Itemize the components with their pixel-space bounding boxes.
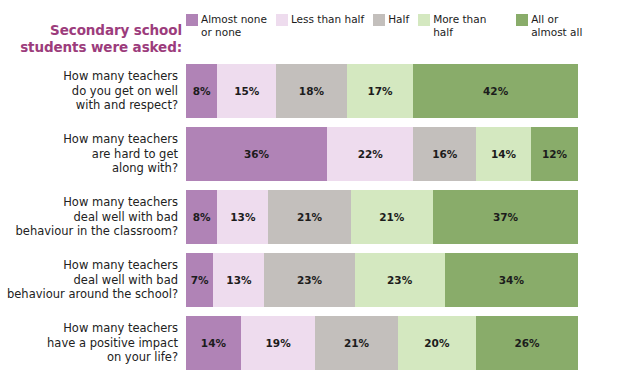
bar-segment-value: 37% [493,211,518,223]
bar-segment-value: 26% [514,337,539,349]
bar-segment[interactable]: 37% [433,190,578,244]
bar-segment-value: 34% [499,274,524,286]
bar-segment[interactable]: 23% [355,253,445,307]
legend-item-label: All or almost all [531,13,582,38]
bar-segment[interactable]: 34% [445,253,578,307]
legend-item-label: Almost none or none [201,13,267,38]
bar-segment-value: 8% [193,211,211,223]
bar-segment-value: 16% [432,148,457,160]
bar-segment-value: 18% [299,85,324,97]
chart-row: How many teachers are hard to get along … [0,125,634,188]
bar-segment-value: 19% [266,337,291,349]
bar-segment-value: 17% [367,85,392,97]
row-label: How many teachers deal well with bad beh… [6,188,182,246]
bar-segment-value: 13% [226,274,251,286]
bar-segment[interactable]: 8% [186,190,217,244]
bar-segment[interactable]: 14% [186,316,241,370]
chart-legend: Almost none or noneLess than halfHalfMor… [186,13,634,38]
chart-rows: How many teachers do you get on well wit… [0,62,634,377]
stacked-bar: 8%13%21%21%37% [186,190,578,244]
legend-item[interactable]: More than half [418,13,507,38]
legend-item-label: Half [388,13,409,26]
row-label: How many teachers do you get on well wit… [6,62,182,120]
bar-segment-value: 21% [379,211,404,223]
bar-segment-value: 15% [234,85,259,97]
bar-segment-value: 13% [230,211,255,223]
bar-segment[interactable]: 20% [398,316,476,370]
bar-segment-value: 21% [297,211,322,223]
bar-segment[interactable]: 18% [276,64,347,118]
bar-segment[interactable]: 15% [217,64,276,118]
chart-header: Secondary school students were asked: Al… [0,0,634,62]
legend-item[interactable]: Less than half [276,13,364,26]
bar-segment[interactable]: 8% [186,64,217,118]
bar-segment[interactable]: 22% [327,127,413,181]
bar-segment-value: 22% [358,148,383,160]
legend-swatch-icon [373,14,385,26]
stacked-bar: 36%22%16%14%12% [186,127,578,181]
bar-segment[interactable]: 13% [213,253,264,307]
bar-segment-value: 20% [424,337,449,349]
bar-segment[interactable]: 21% [351,190,433,244]
bar-segment-value: 7% [191,274,209,286]
chart-row: How many teachers do you get on well wit… [0,62,634,125]
bar-segment[interactable]: 12% [531,127,578,181]
page-title: Secondary school students were asked: [10,22,182,56]
chart-row: How many teachers deal well with bad beh… [0,188,634,251]
stacked-bar: 8%15%18%17%42% [186,64,578,118]
bar-segment-value: 8% [193,85,211,97]
legend-item[interactable]: Half [373,13,409,26]
stacked-bar: 14%19%21%20%26% [186,316,578,370]
bar-segment[interactable]: 16% [413,127,476,181]
chart-row: How many teachers have a positive impact… [0,314,634,377]
legend-swatch-icon [276,14,288,26]
chart-row: How many teachers deal well with bad beh… [0,251,634,314]
bar-segment-value: 23% [387,274,412,286]
legend-item[interactable]: Almost none or none [186,13,267,38]
bar-segment-value: 23% [297,274,322,286]
bar-segment-value: 36% [244,148,269,160]
bar-segment-value: 14% [491,148,516,160]
bar-segment[interactable]: 17% [347,64,414,118]
bar-segment-value: 14% [201,337,226,349]
legend-swatch-icon [186,14,198,26]
bar-segment-value: 21% [344,337,369,349]
bar-segment-value: 12% [542,148,567,160]
bar-segment[interactable]: 21% [268,190,350,244]
legend-swatch-icon [418,14,430,26]
row-label: How many teachers are hard to get along … [6,125,182,183]
legend-swatch-icon [516,14,528,26]
bar-segment[interactable]: 7% [186,253,213,307]
bar-segment-value: 42% [483,85,508,97]
bar-segment[interactable]: 23% [264,253,354,307]
bar-segment[interactable]: 36% [186,127,327,181]
legend-item-label: Less than half [291,13,364,26]
bar-segment[interactable]: 19% [241,316,315,370]
bar-segment[interactable]: 42% [413,64,578,118]
stacked-bar: 7%13%23%23%34% [186,253,578,307]
bar-segment[interactable]: 26% [476,316,578,370]
legend-item-label: More than half [433,13,507,38]
row-label: How many teachers have a positive impact… [6,314,182,372]
bar-segment[interactable]: 21% [315,316,397,370]
legend-item[interactable]: All or almost all [516,13,582,38]
row-label: How many teachers deal well with bad beh… [6,251,182,309]
bar-segment[interactable]: 14% [476,127,531,181]
bar-segment[interactable]: 13% [217,190,268,244]
